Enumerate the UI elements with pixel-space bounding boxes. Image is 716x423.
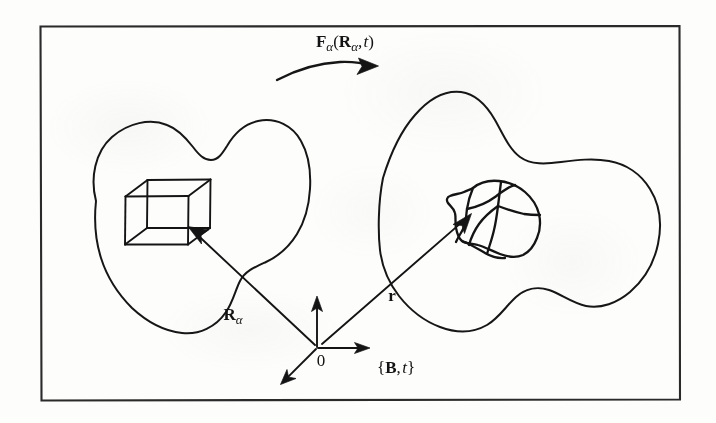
axis-diagonal [281, 349, 317, 385]
axis-horizontal [318, 343, 370, 354]
label-configuration-text: {B, t} [377, 358, 415, 377]
figure-root: Fα(Rα, t) Rα r 0 {B, t} [0, 0, 716, 423]
label-R-alpha-text: Rα [223, 305, 243, 327]
label-deformation-map-text: Fα(Rα, t) [316, 32, 374, 54]
vector-R-alpha [188, 227, 315, 346]
label-deformation-map: Fα(Rα, t) [316, 32, 374, 54]
deformation-map-arrow [277, 58, 379, 80]
label-configuration: {B, t} [377, 358, 415, 377]
figure-canvas: Fα(Rα, t) Rα r 0 {B, t} [0, 0, 716, 423]
label-origin: 0 [317, 351, 326, 370]
vector-r [322, 214, 472, 345]
label-origin-text: 0 [317, 351, 326, 370]
label-r-text: r [388, 286, 396, 305]
label-R-alpha: Rα [223, 305, 243, 327]
label-r: r [388, 286, 396, 305]
axis-vertical [312, 296, 323, 347]
current-configuration-blob [379, 92, 660, 332]
